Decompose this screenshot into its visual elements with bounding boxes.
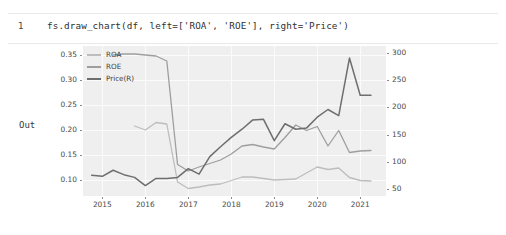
output-prompt-label: Out <box>19 120 35 130</box>
y-axis-right-tick-mark <box>387 135 389 136</box>
y-axis-left-tick-mark <box>80 155 82 156</box>
cell-divider-top <box>8 13 498 14</box>
legend-color-swatch <box>87 66 101 68</box>
y-axis-right-tick-label: 150 <box>392 130 426 139</box>
code-input-line[interactable]: fs.draw_chart(df, left=['ROA', 'ROE'], r… <box>47 20 349 31</box>
x-axis-tick-label: 2020 <box>297 200 337 209</box>
y-axis-left-tick-label: 0.30 <box>47 75 77 84</box>
y-axis-left-tick-label: 0.20 <box>47 125 77 134</box>
legend-item-label: ROE <box>106 61 121 72</box>
y-axis-right-tick-label: 250 <box>392 75 426 84</box>
y-axis-right-tick-label: 50 <box>392 184 426 193</box>
y-axis-right-tick-mark <box>387 53 389 54</box>
y-axis-right-tick-label: 100 <box>392 157 426 166</box>
y-axis-left-tick-mark <box>80 180 82 181</box>
x-axis-tick-label: 2019 <box>254 200 294 209</box>
y-axis-left-tick-label: 0.25 <box>47 100 77 109</box>
legend-color-swatch <box>87 54 101 56</box>
x-axis-tick-label: 2021 <box>340 200 380 209</box>
legend-item-label: ROA <box>106 49 121 60</box>
x-axis-tick-mark <box>231 197 232 199</box>
x-axis-tick-mark <box>188 197 189 199</box>
y-axis-left-tick-label: 0.15 <box>47 150 77 159</box>
legend-item: ROE <box>87 61 161 72</box>
x-axis-tick-mark <box>102 197 103 199</box>
x-axis-tick-label: 2017 <box>168 200 208 209</box>
legend-item: Price(R) <box>87 73 161 84</box>
chart-figure: 0.100.150.200.250.300.35 501001502002503… <box>47 40 467 225</box>
y-axis-right-tick-mark <box>387 80 389 81</box>
x-axis-tick-label: 2018 <box>211 200 251 209</box>
y-axis-left-tick-label: 0.35 <box>47 50 77 59</box>
legend-color-swatch <box>87 78 101 80</box>
y-axis-right-tick-label: 200 <box>392 102 426 111</box>
y-axis-left-tick-mark <box>80 55 82 56</box>
y-axis-right-tick-mark <box>387 107 389 108</box>
x-axis-tick-label: 2016 <box>125 200 165 209</box>
y-axis-left-tick-mark <box>80 80 82 81</box>
y-axis-left-tick-label: 0.10 <box>47 175 77 184</box>
x-axis-tick-label: 2015 <box>82 200 122 209</box>
x-axis-tick-mark <box>274 197 275 199</box>
y-axis-right-tick-mark <box>387 162 389 163</box>
chart-legend: ROAROEPrice(R) <box>87 49 161 85</box>
legend-item-label: Price(R) <box>106 73 134 84</box>
x-axis-tick-mark <box>317 197 318 199</box>
y-axis-left-tick-mark <box>80 130 82 131</box>
y-axis-right-tick-label: 300 <box>392 48 426 57</box>
y-axis-left-tick-mark <box>80 105 82 106</box>
x-axis-tick-mark <box>360 197 361 199</box>
legend-item: ROA <box>87 49 161 60</box>
notebook-cell: 1 fs.draw_chart(df, left=['ROA', 'ROE'],… <box>0 0 506 235</box>
x-axis-tick-mark <box>145 197 146 199</box>
y-axis-right-tick-mark <box>387 189 389 190</box>
cell-prompt-number: 1 <box>18 21 23 31</box>
